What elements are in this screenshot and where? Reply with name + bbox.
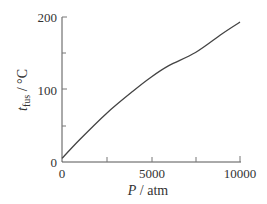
y-tick-label-100: 100: [38, 83, 58, 98]
x-tick-label-5000: 5000: [139, 166, 165, 181]
x-ticks: [107, 156, 240, 162]
x-tick-label-0: 0: [59, 166, 66, 181]
x-axis-title: P / atm: [127, 183, 169, 198]
chart: 200 100 0 0 5000 10000 P / atm tfus / °C: [0, 0, 267, 204]
y-ticks: [62, 17, 67, 126]
y-tick-label-0: 0: [51, 155, 58, 170]
y-axis-title: tfus / °C: [15, 69, 32, 111]
x-tick-label-10000: 10000: [224, 166, 257, 181]
y-tick-label-200: 200: [38, 10, 58, 25]
melting-point-curve: [62, 22, 240, 158]
